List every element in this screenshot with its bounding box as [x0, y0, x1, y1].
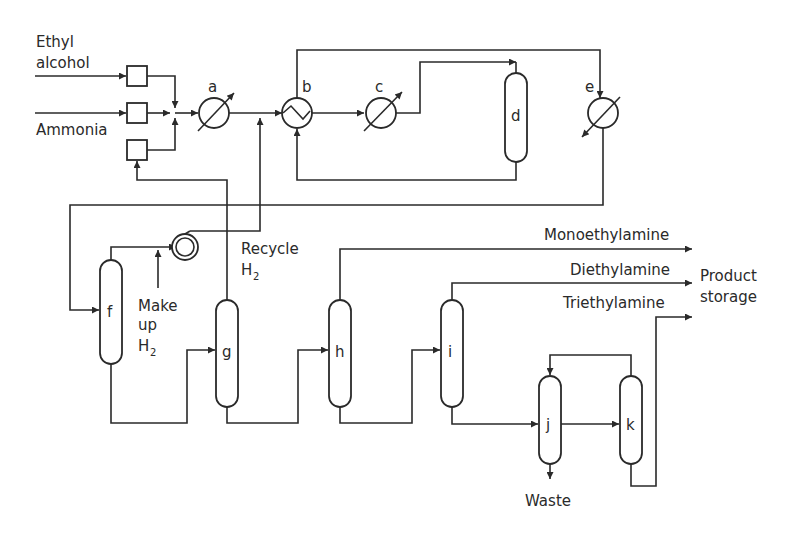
label-h: h [335, 343, 345, 361]
product-storage-label-line2: storage [700, 288, 757, 306]
metering-box-ethanol [127, 66, 147, 86]
ethanol-to-mix-line [147, 76, 175, 108]
label-b: b [302, 78, 312, 96]
i-to-j-line [452, 407, 538, 424]
f-to-compressor-line [111, 247, 176, 260]
cooler-e-circle [588, 98, 618, 128]
column-h: h [329, 300, 351, 407]
label-d: d [511, 107, 521, 125]
heater-c: c [364, 78, 402, 131]
recycle-h-label: H [241, 261, 252, 279]
k-to-j-recycle-line [550, 355, 631, 376]
recycle-label: Recycle [241, 240, 299, 258]
label-j: j [545, 416, 550, 434]
ammonia-label: Ammonia [36, 121, 108, 139]
process-flow-diagram: a b c d e f [0, 0, 800, 533]
label-f: f [107, 303, 113, 321]
b-to-e-line [297, 50, 600, 98]
label-i: i [448, 343, 452, 361]
d-to-b-line [297, 129, 516, 180]
diethylamine-label: Diethylamine [570, 261, 670, 279]
column-j: j [539, 376, 561, 464]
g-to-h-line [227, 350, 328, 423]
waste-label: Waste [525, 492, 571, 510]
makeup-label-line1: Make [138, 297, 178, 315]
heater-a: a [198, 78, 234, 131]
label-a: a [208, 78, 217, 96]
column-i: i [441, 300, 463, 407]
makeup-label-line2: up [138, 316, 157, 334]
feed-lines [35, 76, 126, 113]
label-g: g [222, 343, 232, 361]
column-g: g [216, 300, 238, 407]
compressor [172, 234, 198, 260]
metering-box-ammonia [127, 103, 147, 123]
ethyl-alcohol-label-line2: alcohol [36, 54, 90, 72]
product-storage-label-line1: Product [700, 267, 757, 285]
label-k: k [626, 416, 635, 434]
recycle-h-subscript: 2 [253, 271, 259, 282]
c-to-d-line [396, 62, 516, 113]
h-to-i-line [340, 350, 440, 423]
column-k: k [620, 376, 642, 464]
label-e: e [585, 78, 594, 96]
recycle-to-mix-line [147, 118, 175, 150]
metering-box-recycle [127, 140, 147, 160]
triethylamine-label: Triethylamine [562, 294, 665, 312]
label-c: c [375, 78, 383, 96]
f-to-g-line [111, 350, 215, 423]
makeup-h-label: H [138, 337, 149, 355]
separator-f: f [100, 260, 122, 364]
recycle-h2-line [190, 118, 260, 231]
monoethylamine-label: Monoethylamine [544, 226, 669, 244]
cooler-e: e [582, 78, 620, 137]
ethyl-alcohol-label-line1: Ethyl [36, 33, 74, 51]
reactor-d: d [505, 73, 527, 162]
makeup-h-subscript: 2 [150, 347, 156, 358]
